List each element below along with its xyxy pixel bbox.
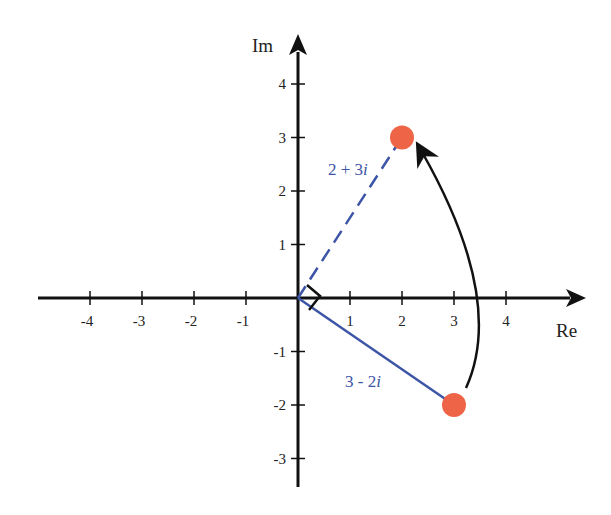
x-tick-label: -4 <box>81 313 94 329</box>
rotation-arrow <box>422 152 479 388</box>
vectors: 3 - 2i2 + 3i <box>298 138 454 406</box>
x-tick-label: 3 <box>450 313 458 329</box>
y-tick-label: -1 <box>274 344 287 360</box>
x-tick-label: 4 <box>502 313 510 329</box>
y-tick-label: 4 <box>279 76 287 92</box>
complex-plane: -4-3-2-112344321-1-2-3 3 - 2i2 + 3i Re I… <box>0 0 611 515</box>
x-tick-label: -3 <box>133 313 146 329</box>
y-tick-label: 3 <box>279 130 287 146</box>
rotation-arc <box>422 152 479 388</box>
points <box>390 126 466 418</box>
x-tick-label: 2 <box>398 313 406 329</box>
point-label-p2: 2 + 3i <box>328 160 368 179</box>
y-axis-label: Im <box>252 35 273 56</box>
x-tick-label: 1 <box>346 313 354 329</box>
x-tick-label: -2 <box>185 313 198 329</box>
point-p1 <box>442 393 466 417</box>
y-axis-arrow-icon <box>289 34 307 55</box>
point-p2 <box>390 126 414 150</box>
y-tick-label: -2 <box>274 397 287 413</box>
x-axis-label: Re <box>556 320 577 341</box>
y-tick-label: 1 <box>279 237 287 253</box>
axes <box>38 34 586 487</box>
y-tick-label: -3 <box>274 451 287 467</box>
point-label-p1: 3 - 2i <box>345 372 381 391</box>
x-tick-label: -1 <box>237 313 250 329</box>
y-tick-label: 2 <box>279 183 287 199</box>
